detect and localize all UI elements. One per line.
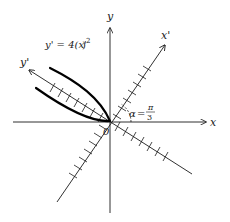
angle-label: α = π 3 [129,103,155,122]
angle-numerator: π [147,103,154,112]
diagram-canvas: x y x' y' 0 y' = 4(x' ) 2 α = π 3 [0,0,230,222]
equation-exponent: 2 [86,37,90,45]
equation-text: y' = 4(x' [44,39,87,50]
y-axis-label: y [106,10,114,23]
y-prime-axis-label: y' [19,56,29,69]
origin-label: 0 [103,126,110,137]
angle-symbol: α [129,108,136,119]
angle-equals: = [137,108,145,119]
x-prime-axis [57,45,165,202]
x-axis-label: x [210,116,217,129]
angle-denominator: 3 [147,113,152,122]
equation-label: y' = 4(x' ) 2 [44,37,90,50]
parabola-curve [36,68,110,121]
x-prime-axis-label: x' [161,29,170,42]
